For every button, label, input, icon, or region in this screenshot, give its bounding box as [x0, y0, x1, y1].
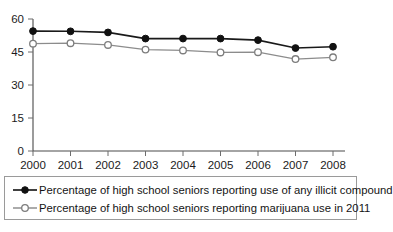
y-tick-label: 60: [0, 13, 24, 25]
x-tick-label: 2000: [20, 159, 46, 171]
y-tick-label: 0: [0, 145, 24, 157]
legend-item-illicit: Percentage of high school seniors report…: [11, 181, 356, 199]
data-point: [105, 42, 112, 49]
data-point: [30, 28, 37, 35]
y-tick-label: 15: [0, 112, 24, 124]
x-tick-label: 2001: [58, 159, 84, 171]
data-point: [292, 45, 299, 52]
data-point: [142, 46, 149, 53]
data-point: [180, 47, 187, 54]
data-point: [292, 56, 299, 63]
legend-label-marijuana: Percentage of high school seniors report…: [39, 201, 370, 215]
x-tick-label: 2007: [283, 159, 309, 171]
data-point: [67, 40, 74, 47]
data-point: [67, 28, 74, 35]
data-point: [105, 29, 112, 36]
data-point: [180, 35, 187, 42]
data-point: [30, 40, 37, 47]
x-tick-label: 2008: [320, 159, 346, 171]
data-point: [330, 54, 337, 61]
data-point: [330, 43, 337, 50]
x-tick-label: 2002: [95, 159, 121, 171]
y-tick-label: 30: [0, 79, 24, 91]
data-point: [217, 49, 224, 56]
x-tick-label: 2005: [208, 159, 234, 171]
legend-label-illicit: Percentage of high school seniors report…: [39, 183, 393, 197]
y-tick-label: 45: [0, 46, 24, 58]
x-tick-label: 2006: [245, 159, 271, 171]
chart-legend: Percentage of high school seniors report…: [4, 176, 357, 220]
legend-item-marijuana: Percentage of high school seniors report…: [11, 199, 356, 217]
open-circle-marker-icon: [11, 201, 39, 215]
series-markers: [30, 28, 337, 63]
line-chart-svg: [0, 0, 367, 170]
plot-area: 015304560 200020012002200320042005200620…: [0, 0, 367, 170]
filled-circle-marker-icon: [11, 183, 39, 197]
data-point: [217, 35, 224, 42]
data-point: [255, 37, 262, 44]
data-point: [142, 35, 149, 42]
data-point: [255, 49, 262, 56]
x-tick-label: 2004: [170, 159, 196, 171]
x-tick-label: 2003: [133, 159, 159, 171]
